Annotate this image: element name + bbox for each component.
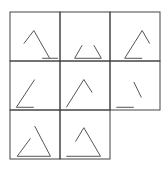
- figure-line: [134, 82, 142, 98]
- figure-line: [142, 31, 150, 44]
- figure-line: [76, 128, 84, 142]
- figure-line: [34, 31, 50, 59]
- figure-line: [66, 80, 84, 108]
- grid-cell: [10, 61, 60, 110]
- grid-cell: [60, 110, 110, 159]
- figure-line: [24, 31, 34, 44]
- grid-cell: [10, 12, 60, 61]
- grid-cell: [10, 110, 60, 159]
- figure-line: [94, 45, 102, 58]
- figure-line: [35, 126, 51, 156]
- grid-cell: [60, 61, 110, 110]
- figure-line: [17, 138, 30, 156]
- figure-line: [16, 80, 34, 108]
- grid-cell: [110, 12, 160, 61]
- figure-line: [75, 45, 83, 58]
- figure-line: [125, 31, 143, 59]
- puzzle-grid: [0, 0, 168, 171]
- figure-line: [84, 128, 101, 157]
- figure-line: [84, 80, 92, 93]
- grid-cell: [60, 12, 110, 61]
